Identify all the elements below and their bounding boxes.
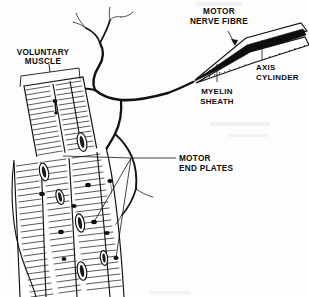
motor-end-plate xyxy=(39,192,45,196)
anatomical-diagram-canvas: VOLUNTARY MUSCLE MOTOR NERVE FIBRE AXIS … xyxy=(0,0,309,297)
label-myelin-sheath-line1: MYELIN xyxy=(201,87,233,96)
label-voluntary-muscle-line1: VOLUNTARY xyxy=(17,48,70,57)
label-voluntary-muscle-line2: MUSCLE xyxy=(25,57,62,66)
label-motor-nerve-fibre-line1: MOTOR xyxy=(203,7,235,16)
motor-end-plate xyxy=(107,179,112,183)
motor-end-plate xyxy=(104,231,109,235)
label-myelin-sheath: MYELIN SHEATH xyxy=(200,87,234,106)
label-motor-nerve-fibre-line2: NERVE FIBRE xyxy=(190,17,248,26)
motor-end-plate xyxy=(71,204,76,208)
label-axis-cylinder-line2: CYLINDER xyxy=(256,73,299,82)
voluntary-muscle-lower-mass xyxy=(10,147,124,297)
motor-end-plate xyxy=(58,230,64,234)
diagram-figure: VOLUNTARY MUSCLE MOTOR NERVE FIBRE AXIS … xyxy=(0,0,309,297)
label-motor-end-plates-line1: MOTOR xyxy=(179,154,211,163)
motor-end-plate xyxy=(85,183,91,187)
label-axis-cylinder-line1: AXIS xyxy=(256,63,276,72)
label-motor-end-plates-line2: END PLATES xyxy=(179,164,233,173)
label-myelin-sheath-line2: SHEATH xyxy=(200,97,234,106)
motor-end-plate xyxy=(62,257,67,261)
